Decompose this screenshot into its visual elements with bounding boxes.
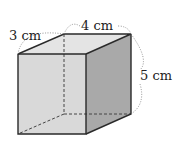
width-label: 4 cm <box>81 18 113 33</box>
front-face <box>18 54 86 134</box>
depth-label: 3 cm <box>9 28 41 43</box>
height-label: 5 cm <box>140 68 172 83</box>
prism-diagram: 3 cm 4 cm 5 cm <box>0 0 183 155</box>
